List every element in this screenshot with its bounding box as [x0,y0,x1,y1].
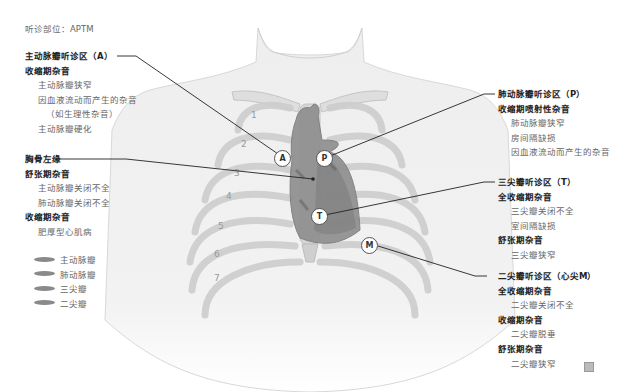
legend-label: 肺动脉瓣 [60,268,96,280]
mitral-item: 二尖瓣狭窄 [498,357,596,372]
aortic-phase: 收缩期杂音 [25,64,137,79]
pulmonic-area-title: 肺动脉瓣听诊区（P） [498,87,610,102]
legend-item-pulmonic: 肺动脉瓣 [34,267,96,282]
pulmonic-area-block: 肺动脉瓣听诊区（P） 收缩期喷射性杂音 肺动脉瓣狭窄 房间隔缺损 因血液流动而产… [498,87,610,160]
legend-label: 二尖瓣 [60,297,87,309]
mitral-item: 二尖瓣脱垂 [498,327,596,342]
swatch-icon [34,257,55,262]
svg-text:7: 7 [214,273,220,283]
svg-text:6: 6 [214,249,220,259]
valve-legend: 主动脉瓣 肺动脉瓣 三尖瓣 二尖瓣 [34,252,96,310]
sternal-phase-diastolic: 舒张期杂音 [25,167,110,182]
sternal-item: 肺动脉瓣关闭不全 [25,196,110,211]
svg-text:3: 3 [234,168,240,178]
marker-aortic[interactable]: A [274,150,291,167]
tricuspid-phase-holosystolic: 全收缩期杂音 [498,190,576,205]
aortic-item: 主动脉瓣狭窄 [25,78,137,93]
tricuspid-area-title: 三尖瓣听诊区（T） [498,175,576,190]
legend-item-aortic: 主动脉瓣 [34,252,96,267]
mitral-area-block: 二尖瓣听诊区（心尖M） 全收缩期杂音 二尖瓣关闭不全 收缩期杂音 二尖瓣脱垂 舒… [498,269,596,371]
legend-label: 三尖瓣 [60,282,87,294]
pulmonic-item: 因血液流动而产生的杂音 [498,145,610,160]
mitral-item: 二尖瓣关闭不全 [498,298,596,313]
legend-item-tricuspid: 三尖瓣 [34,281,96,296]
mitral-phase-holosystolic: 全收缩期杂音 [498,284,596,299]
svg-text:2: 2 [241,139,247,149]
aortic-item: 因血液流动而产生的杂音 [25,93,137,108]
mitral-phase-systolic: 收缩期杂音 [498,313,596,328]
swatch-icon [34,300,55,305]
pulmonic-item: 肺动脉瓣狭窄 [498,116,610,131]
sternal-border-dot [311,177,315,181]
marker-tricuspid[interactable]: T [311,208,328,225]
svg-text:5: 5 [218,221,224,231]
legend-item-mitral: 二尖瓣 [34,296,96,311]
tricuspid-phase-diastolic: 舒张期杂音 [498,233,576,248]
sternal-border-title: 胸骨左缘 [25,152,110,167]
auscultation-diagram: 1 2 3 4 5 6 7 A P T M 听诊部位：APTM 主动脉瓣 [0,0,626,392]
legend-label: 主动脉瓣 [60,253,96,265]
marker-mitral[interactable]: M [361,237,378,254]
aortic-item: 主动脉瓣硬化 [25,122,137,137]
aortic-area-block: 主动脉瓣听诊区（A） 收缩期杂音 主动脉瓣狭窄 因血液流动而产生的杂音 （如生理… [25,49,137,137]
aortic-area-title: 主动脉瓣听诊区（A） [25,49,137,64]
watermark-icon [584,362,594,372]
aortic-item: （如生理性杂音） [25,107,137,122]
auscultation-sites-label: 听诊部位：APTM [25,22,93,36]
swatch-icon [34,271,55,276]
mitral-phase-diastolic: 舒张期杂音 [498,342,596,357]
tricuspid-item: 三尖瓣关闭不全 [498,204,576,219]
sternal-border-block: 胸骨左缘 舒张期杂音 主动脉瓣关闭不全 肺动脉瓣关闭不全 收缩期杂音 肥厚型心肌… [25,152,110,240]
svg-text:1: 1 [251,110,257,120]
tricuspid-item: 三尖瓣狭窄 [498,248,576,263]
tricuspid-area-block: 三尖瓣听诊区（T） 全收缩期杂音 三尖瓣关闭不全 室间隔缺损 舒张期杂音 三尖瓣… [498,175,576,263]
swatch-icon [34,286,55,291]
pulmonic-phase: 收缩期喷射性杂音 [498,102,610,117]
marker-pulmonic[interactable]: P [316,150,333,167]
sternal-item: 主动脉瓣关闭不全 [25,181,110,196]
sternal-phase-systolic: 收缩期杂音 [25,210,110,225]
pulmonic-item: 房间隔缺损 [498,131,610,146]
mitral-area-title: 二尖瓣听诊区（心尖M） [498,269,596,284]
svg-text:4: 4 [226,191,232,201]
tricuspid-item: 室间隔缺损 [498,219,576,234]
sternal-item: 肥厚型心肌病 [25,225,110,240]
